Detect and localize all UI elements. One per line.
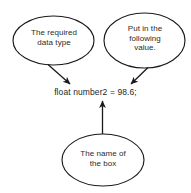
diagram-canvas: The required data type Put in the follow… (0, 0, 191, 193)
callout-ellipse-name (62, 134, 144, 186)
arrow-data-type-to-float (48, 65, 70, 85)
callout-ellipse-data-type (13, 16, 94, 65)
code-statement: float number2 = 98.6; (0, 87, 191, 98)
callout-ellipse-value (104, 13, 185, 68)
arrow-value-to-literal (131, 68, 148, 85)
